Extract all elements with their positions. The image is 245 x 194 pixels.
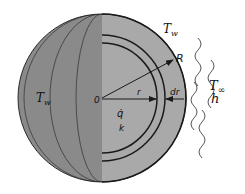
label-h: h bbox=[211, 91, 219, 106]
label-dr: dr bbox=[170, 87, 181, 97]
label-k: k bbox=[119, 123, 125, 133]
label-R: R bbox=[176, 52, 184, 65]
label-tw-surface: Tw bbox=[163, 22, 178, 38]
label-q-dot: q̇ bbox=[117, 108, 123, 119]
sphere-diagram: Tw R Tw 0 r dr q̇ k T∞ h bbox=[0, 0, 245, 194]
label-center: 0 bbox=[94, 95, 100, 105]
